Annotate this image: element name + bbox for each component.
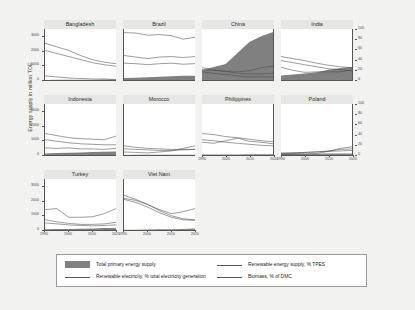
panel-title: India: [281, 20, 353, 29]
x-tick-label: 1990: [119, 232, 127, 236]
panel-turkey: Turkey19902000201020200100020003000: [44, 170, 116, 230]
series-renewable-electricity-pct: [45, 148, 116, 150]
x-axis-line: [202, 155, 274, 156]
y-axis-left-ticks: 0100020003000: [32, 29, 42, 80]
y-tick-label: 0: [30, 153, 39, 157]
y-tick-mark: [42, 230, 44, 231]
y-axis-right-ticks: 020406080100: [355, 29, 367, 80]
panel-title: Bangladesh: [44, 20, 116, 29]
y-tick-mark: [355, 29, 357, 30]
y-tick-mark: [355, 145, 357, 146]
x-tick-label: 2010: [167, 232, 175, 236]
y-tick-label: 60: [358, 47, 362, 51]
series-renewable-energy-supply-pct-tpes: [124, 146, 195, 150]
x-axis-line: [44, 80, 116, 81]
panel-plot: [281, 29, 353, 80]
y-tick-label: 0: [358, 78, 360, 82]
series-renewable-electricity-pct: [124, 33, 195, 40]
panel-plot: [123, 104, 195, 155]
y-tick-label: 3000: [30, 109, 39, 113]
x-tick-label: 1990: [198, 157, 206, 161]
y-tick-mark: [355, 70, 357, 71]
y-tick-label: 0: [30, 78, 39, 82]
panel-india: India020406080100: [281, 20, 353, 80]
y-tick-mark: [42, 80, 44, 81]
panel-brazil: Brazil: [123, 20, 195, 80]
legend-label: Renewable energy supply, % TPES: [248, 261, 325, 269]
x-axis-line: [123, 80, 195, 81]
y-tick-label: 20: [358, 143, 362, 147]
panel-plot: [202, 29, 274, 80]
x-tick-label: 2010: [325, 157, 333, 161]
chart-legend: Total primary energy supplyRenewable ele…: [56, 254, 367, 287]
y-tick-mark: [42, 215, 44, 216]
x-tick-label: 2000: [222, 157, 230, 161]
y-tick-mark: [355, 135, 357, 136]
y-tick-label: 100: [358, 102, 364, 106]
panel-plot: [123, 179, 195, 230]
legend-label: Biomass, % of DMC: [248, 273, 292, 281]
y-tick-mark: [355, 104, 357, 105]
legend-line-swatch: [217, 277, 242, 278]
x-tick-label: 1990: [277, 157, 285, 161]
y-tick-mark: [42, 65, 44, 66]
y-tick-label: 20: [358, 68, 362, 72]
y-tick-mark: [355, 80, 357, 81]
panel-bangladesh: Bangladesh0100020003000: [44, 20, 116, 80]
legend-area-swatch: [65, 261, 90, 268]
series-renewable-electricity-pct: [45, 76, 116, 80]
series-biomass-pct-dmc: [45, 140, 116, 145]
x-tick-label: 1990: [40, 232, 48, 236]
x-tick-label: 2000: [64, 232, 72, 236]
x-axis-line: [281, 80, 353, 81]
series-renewable-energy-supply-pct-tpes: [124, 195, 195, 219]
x-tick-label: 2000: [143, 232, 151, 236]
x-axis-line: [123, 155, 195, 156]
y-tick-label: 80: [358, 37, 362, 41]
y-tick-mark: [42, 201, 44, 202]
y-axis-left-ticks: 0100020003000: [32, 179, 42, 230]
x-axis-line: [44, 155, 116, 156]
y-tick-label: 0: [30, 228, 39, 232]
panel-title: Morocco: [123, 95, 195, 104]
y-axis-right-ticks: 020406080100: [355, 104, 367, 155]
y-tick-mark: [355, 114, 357, 115]
x-tick-label: 2010: [88, 232, 96, 236]
series-renewable-energy-supply-pct-tpes: [124, 56, 195, 59]
y-tick-mark: [42, 155, 44, 156]
y-tick-label: 1000: [30, 138, 39, 142]
panel-title: Philippines: [202, 95, 274, 104]
y-tick-label: 3000: [30, 184, 39, 188]
y-tick-label: 40: [358, 58, 362, 62]
x-axis-line: [281, 155, 353, 156]
panel-plot: [44, 179, 116, 230]
y-tick-mark: [42, 111, 44, 112]
legend-label: Renewable electricity, % total electrici…: [96, 273, 206, 281]
y-tick-label: 3000: [30, 34, 39, 38]
panel-philippines: Philippines1990200020102020: [202, 95, 274, 155]
x-tick-label: 2020: [349, 157, 357, 161]
x-axis-line: [123, 230, 195, 231]
panel-viet-nam: Viet Nam1990200020102020: [123, 170, 195, 230]
panel-plot: [281, 104, 353, 155]
x-tick-label: 2020: [191, 232, 199, 236]
y-tick-label: 1000: [30, 213, 39, 217]
y-tick-label: 2000: [30, 49, 39, 53]
y-tick-mark: [42, 186, 44, 187]
panel-title: Brazil: [123, 20, 195, 29]
y-tick-label: 40: [358, 133, 362, 137]
x-axis-line: [202, 80, 274, 81]
x-tick-label: 2000: [301, 157, 309, 161]
panel-title: Poland: [281, 95, 353, 104]
y-tick-mark: [42, 36, 44, 37]
panel-title: Turkey: [44, 170, 116, 179]
series-biomass-pct-dmc: [45, 50, 116, 66]
y-tick-label: 0: [358, 153, 360, 157]
legend-line-swatch: [65, 277, 90, 278]
series-renewable-electricity-pct: [45, 209, 116, 218]
series-biomass-pct-dmc: [124, 63, 195, 65]
panel-indonesia: Indonesia0100020003000: [44, 95, 116, 155]
series-total-primary-energy-supply: [281, 67, 352, 80]
y-tick-mark: [355, 49, 357, 50]
y-tick-mark: [355, 60, 357, 61]
